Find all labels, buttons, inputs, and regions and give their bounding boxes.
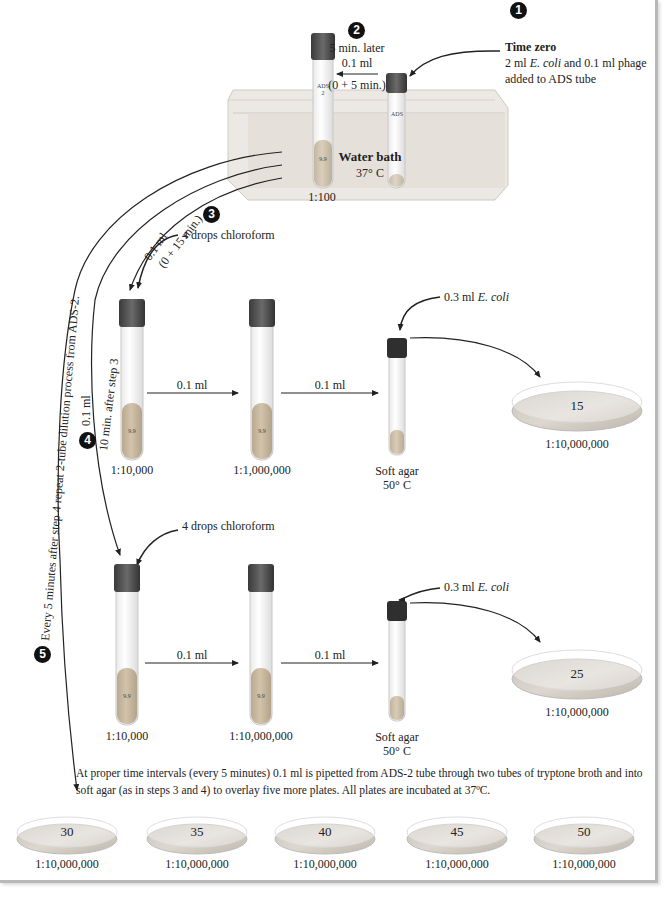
step-1-desc: 2 ml E. coli and 0.1 ml phage [505, 56, 647, 70]
plate-dilution: 1:10,000,000 [165, 857, 228, 871]
step-1-desc-2: added to ADS tube [505, 72, 596, 86]
summary-text: At proper time intervals (every 5 minute… [76, 765, 656, 799]
ecoli-label-2: 0.3 ml E. coli [444, 580, 509, 594]
step-2-time: 5 min. later [330, 41, 385, 55]
chloroform-label-2: 4 drops chloroform [182, 519, 275, 533]
soft-agar-temp: 50° C [383, 744, 411, 758]
ads2-volume: 9.9 [319, 156, 327, 163]
transfer-label: 0.1 ml [315, 648, 346, 662]
transfer-label: 0.1 ml [177, 378, 208, 392]
text: and 0.1 ml phage [561, 56, 647, 70]
soft-agar-label: Soft agar [375, 464, 419, 478]
tube-volume: 9.9 [123, 693, 131, 700]
step-1-title: Time zero [505, 40, 556, 54]
transfer-label: 0.1 ml [315, 378, 346, 392]
soft-agar-label: Soft agar [375, 730, 419, 744]
plate-count: 30 [61, 824, 74, 840]
dilution-label: 1:1,000,000 [233, 463, 290, 477]
plate-dilution: 1:10,000,000 [552, 857, 615, 871]
text: 0.3 ml [444, 580, 478, 594]
arrow-plate-1 [410, 338, 540, 377]
step-2-offset: (0 + 5 min.) [328, 78, 385, 92]
water-bath [228, 90, 508, 200]
dilution-label: 1:10,000 [111, 463, 153, 477]
tube-row1-1 [119, 299, 145, 460]
plate-count: 45 [451, 824, 464, 840]
dilution-label: 1:10,000,000 [229, 729, 292, 743]
step-2-volume: 0.1 ml [342, 56, 373, 70]
arrow-ecoli-1 [400, 297, 440, 330]
ads2-sub: 2 [322, 90, 325, 97]
plate-count: 15 [571, 398, 584, 414]
tube-ads [386, 73, 407, 188]
ecoli-label-1: 0.3 ml E. coli [444, 290, 509, 304]
tube-volume: 9.9 [128, 428, 136, 435]
tube-volume: 9.9 [257, 693, 265, 700]
step-5-badge: 5 [34, 646, 51, 663]
tube-softagar-2 [387, 601, 407, 721]
ecoli-text: E. coli [478, 290, 509, 304]
plate-dilution: 1:10,000,000 [545, 705, 608, 719]
tube-volume: 9.9 [258, 428, 266, 435]
tube-row1-2 [249, 299, 275, 460]
arrow-ecoli-2 [399, 588, 440, 600]
chloroform-label-1: 4 drops chloroform [182, 228, 275, 242]
plate-count: 40 [319, 824, 332, 840]
plate-count: 50 [578, 824, 591, 840]
transfer-label: 0.1 ml [177, 648, 208, 662]
plate-dilution: 1:10,000,000 [545, 437, 608, 451]
tube-row2-2 [248, 564, 274, 725]
step-4-badge: 4 [79, 432, 96, 449]
plate-count: 35 [191, 824, 204, 840]
plate-dilution: 1:10,000,000 [425, 857, 488, 871]
tube-ads-2 [311, 33, 335, 188]
arrow-step1 [410, 51, 500, 76]
water-bath-temp: 37° C [356, 166, 384, 180]
ecoli-text: E. coli [530, 56, 561, 70]
ecoli-text: E. coli [478, 580, 509, 594]
ads2-label: ADS [317, 83, 329, 90]
text: 0.3 ml [444, 290, 478, 304]
step-1-badge: 1 [510, 2, 527, 19]
tube-softagar-1 [387, 338, 407, 455]
plate-count: 25 [571, 666, 584, 682]
step-2-badge: 2 [348, 22, 365, 39]
ads-label: ADS [391, 111, 403, 118]
plate-dilution: 1:10,000,000 [35, 857, 98, 871]
tube-row2-1 [114, 564, 140, 725]
step-4-volume: 0.1 ml [79, 395, 94, 426]
plate-dilution: 1:10,000,000 [293, 857, 356, 871]
arrow-chloroform-2 [137, 530, 178, 565]
dilution-label: 1:10,000 [106, 729, 148, 743]
arrow-plate-2 [410, 603, 540, 642]
water-bath-title: Water bath [339, 150, 402, 164]
soft-agar-temp: 50° C [383, 478, 411, 492]
text: 2 ml [505, 56, 530, 70]
ads2-dilution: 1:100 [308, 190, 335, 204]
